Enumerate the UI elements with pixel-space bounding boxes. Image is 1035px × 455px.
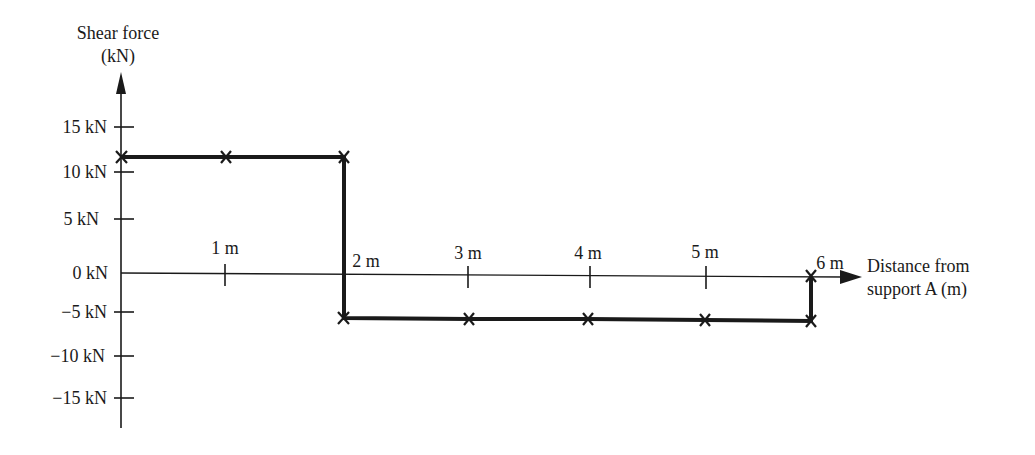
y-ticks [114,127,134,398]
x-tick-label: 1 m [211,238,239,258]
x-tick-labels: 1 m 2 m 3 m 4 m 5 m 6 m [211,238,844,273]
y-axis-title-line2: (kN) [101,46,135,67]
shear-force-diagram: Shear force (kN) 15 kN 10 kN 5 kN 0 kN −… [0,0,1035,455]
y-axis-title-line1: Shear force [77,23,159,43]
y-tick-label: 10 kN [63,162,108,182]
x-ticks [225,264,706,289]
x-tick-label: 2 m [352,251,380,271]
y-tick-label: 5 kN [64,209,100,229]
y-tick-label: 0 kN [73,263,109,283]
y-tick-label: 15 kN [63,117,108,137]
y-tick-label: −15 kN [52,388,107,408]
x-axis-title-line2: support A (m) [867,279,967,300]
y-tick-labels: 15 kN 10 kN 5 kN 0 kN −5 kN −10 kN −15 k… [50,117,108,408]
x-tick-label: 6 m [816,253,844,273]
y-axis-arrow-icon [116,72,126,94]
x-tick-label: 3 m [454,243,482,263]
y-tick-label: −5 kN [61,302,107,322]
x-axis-title-line1: Distance from [867,256,969,276]
x-tick-label: 5 m [691,242,719,262]
y-tick-label: −10 kN [50,346,105,366]
x-tick-label: 4 m [574,243,602,263]
x-axis-line [121,273,845,277]
